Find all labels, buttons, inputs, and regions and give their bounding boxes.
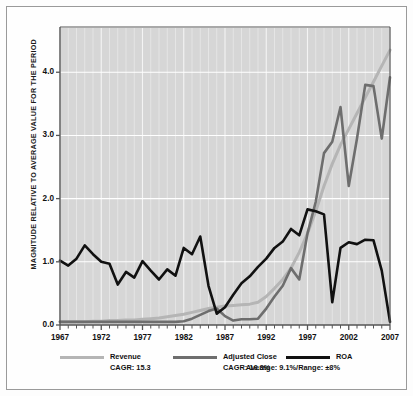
y-tick-label: 4.0 bbox=[18, 67, 54, 76]
x-tick-label: 1992 bbox=[246, 333, 286, 342]
y-tick-label: 2.0 bbox=[18, 194, 54, 203]
legend-label-adjusted-close: Adjusted Close bbox=[223, 352, 277, 361]
legend-swatch-adjusted-close bbox=[173, 356, 217, 359]
y-tick-label: 1.0 bbox=[18, 257, 54, 266]
chart-figure: MAGNITUDE RELATIVE TO AVERAGE VALUE FOR … bbox=[0, 0, 413, 396]
x-tick-label: 2002 bbox=[329, 333, 369, 342]
legend-swatch-revenue bbox=[60, 356, 104, 359]
x-tick-label: 1977 bbox=[123, 333, 163, 342]
x-tick-label: 2007 bbox=[370, 333, 410, 342]
legend-sublabel-revenue: CAGR: 15.3 bbox=[110, 363, 151, 372]
legend-swatch-roa bbox=[286, 356, 330, 359]
legend-label-revenue: Revenue bbox=[110, 352, 141, 361]
legend-sublabel-roa: Average: 9.1%/Range: ±8% bbox=[246, 363, 340, 372]
legend-label-roa: ROA bbox=[336, 352, 352, 361]
chart-page: MAGNITUDE RELATIVE TO AVERAGE VALUE FOR … bbox=[0, 0, 413, 396]
chart-legend: Revenue CAGR: 15.3 Adjusted Close CAGR: … bbox=[18, 352, 396, 382]
y-tick-label: 3.0 bbox=[18, 130, 54, 139]
x-tick-label: 1967 bbox=[40, 333, 80, 342]
x-tick-label: 1972 bbox=[81, 333, 121, 342]
y-tick-label: 0.0 bbox=[18, 320, 54, 329]
x-tick-label: 1987 bbox=[205, 333, 245, 342]
x-tick-label: 1982 bbox=[164, 333, 204, 342]
x-tick-label: 1997 bbox=[288, 333, 328, 342]
